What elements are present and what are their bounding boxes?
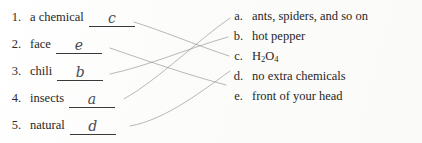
worksheet-page: 1. a chemical c 2. face e 3. chili b 4. … — [0, 0, 422, 143]
left-column: 1. a chemical c 2. face e 3. chili b 4. … — [0, 0, 215, 143]
question-number-1: 1. — [0, 10, 30, 25]
question-row-2: 2. face e — [0, 31, 215, 58]
option-text-a: ants, spiders, and so on — [252, 9, 368, 24]
answer-blank-1[interactable]: c — [89, 9, 135, 27]
option-text-d: no extra chemicals — [252, 69, 346, 84]
option-letter-b: b. — [228, 29, 252, 44]
option-row-e[interactable]: e. front of your head — [228, 86, 422, 107]
handwritten-answer-1: c — [108, 11, 116, 25]
option-row-a[interactable]: a. ants, spiders, and so on — [228, 6, 422, 27]
right-column: a. ants, spiders, and so on b. hot peppe… — [228, 0, 422, 143]
handwritten-answer-5: d — [88, 119, 97, 133]
option-letter-a: a. — [228, 9, 252, 24]
option-text-b: hot pepper — [252, 29, 305, 44]
question-text-2: face — [30, 37, 51, 52]
answer-blank-3[interactable]: b — [57, 63, 103, 81]
answer-blank-5[interactable]: d — [70, 117, 116, 135]
formula-base-1: H — [252, 49, 261, 63]
option-row-c[interactable]: c. H2O4 — [228, 46, 422, 67]
handwritten-answer-2: e — [75, 38, 83, 52]
option-row-b[interactable]: b. hot pepper — [228, 26, 422, 47]
handwritten-answer-3: b — [76, 65, 85, 79]
question-number-4: 4. — [0, 91, 30, 106]
handwritten-answer-4: a — [88, 92, 96, 106]
formula-sub-2: 4 — [274, 54, 278, 64]
formula-base-2: O — [265, 49, 274, 63]
question-row-3: 3. chili b — [0, 58, 215, 85]
question-row-1: 1. a chemical c — [0, 4, 215, 31]
question-number-3: 3. — [0, 64, 30, 79]
option-text-e: front of your head — [252, 89, 343, 104]
question-text-4: insects — [30, 91, 64, 106]
option-letter-e: e. — [228, 89, 252, 104]
option-letter-c: c. — [228, 49, 252, 64]
option-letter-d: d. — [228, 69, 252, 84]
answer-blank-4[interactable]: a — [69, 90, 115, 108]
question-number-5: 5. — [0, 118, 30, 133]
question-text-5: natural — [30, 118, 65, 133]
question-row-5: 5. natural d — [0, 112, 215, 139]
question-row-4: 4. insects a — [0, 85, 215, 112]
option-text-c: H2O4 — [252, 49, 279, 64]
question-number-2: 2. — [0, 37, 30, 52]
option-row-d[interactable]: d. no extra chemicals — [228, 66, 422, 87]
question-text-3: chili — [30, 64, 52, 79]
answer-blank-2[interactable]: e — [56, 36, 102, 54]
question-text-1: a chemical — [30, 10, 84, 25]
